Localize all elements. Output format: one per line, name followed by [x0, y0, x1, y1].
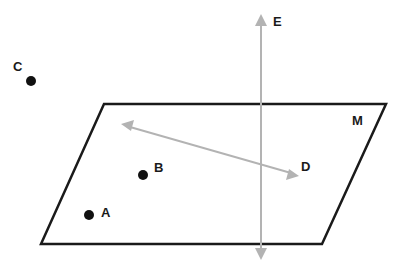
diagram-canvas — [0, 0, 399, 268]
label-d: D — [301, 160, 310, 173]
label-b: B — [154, 161, 163, 174]
point-a — [84, 210, 94, 220]
arrowhead-right — [286, 169, 299, 180]
arrowhead-down — [255, 248, 267, 260]
line-d — [121, 120, 299, 180]
plane-m — [41, 104, 386, 244]
label-e: E — [273, 15, 282, 28]
line-e — [255, 14, 267, 260]
arrowhead-left — [121, 120, 134, 131]
label-m: M — [352, 114, 363, 127]
label-c: C — [13, 60, 22, 73]
point-c — [26, 76, 36, 86]
arrowhead-up — [255, 14, 267, 26]
label-a: A — [101, 206, 110, 219]
point-b — [138, 170, 148, 180]
